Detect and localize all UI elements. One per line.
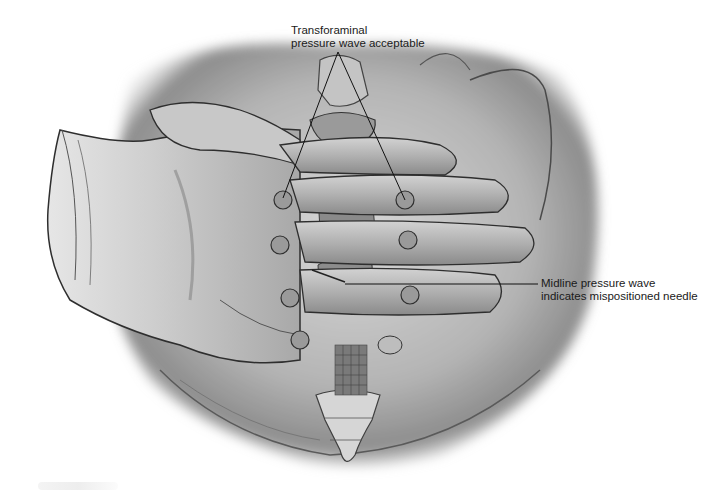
- annotation-transforaminal: Transforaminal pressure wave acceptable: [291, 24, 425, 50]
- anatomical-illustration: [0, 0, 728, 490]
- annotation-transforaminal-line2: pressure wave acceptable: [291, 37, 425, 50]
- annotation-midline-line2: indicates mispositioned needle: [541, 290, 698, 303]
- scan-artifact: [38, 482, 118, 490]
- annotation-midline-line1: Midline pressure wave: [541, 277, 698, 290]
- annotation-midline: Midline pressure wave indicates misposit…: [541, 277, 698, 303]
- annotation-transforaminal-line1: Transforaminal: [291, 24, 425, 37]
- figure-canvas: Transforaminal pressure wave acceptable …: [0, 0, 728, 490]
